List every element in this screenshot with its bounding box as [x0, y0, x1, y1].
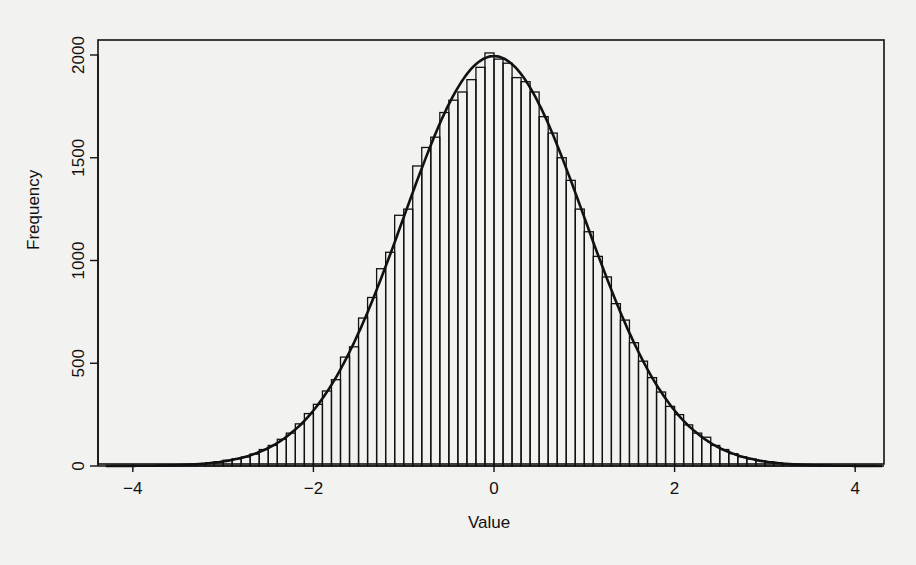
y-tick-label: 1500	[69, 139, 88, 177]
histogram-bar	[413, 166, 422, 466]
histogram-bar	[521, 82, 530, 466]
x-tick-label: 4	[850, 479, 859, 498]
histogram-bar	[431, 137, 440, 466]
histogram-bar	[620, 320, 629, 466]
histogram-bar	[629, 343, 638, 466]
histogram-bar	[485, 53, 494, 466]
x-axis-label: Value	[468, 513, 510, 533]
histogram-bar	[539, 117, 548, 466]
histogram-bar	[458, 92, 467, 466]
histogram-bar	[684, 425, 693, 466]
histogram-bar	[295, 424, 304, 466]
histogram-bar	[286, 433, 295, 466]
x-tick-label: 2	[670, 479, 679, 498]
histogram-bar	[476, 67, 485, 466]
histogram-bar	[593, 256, 602, 466]
x-tick-label: 0	[489, 479, 498, 498]
histogram-bar	[566, 180, 575, 466]
y-tick-label: 0	[69, 461, 88, 470]
histogram-bar	[575, 209, 584, 466]
histogram-bar	[638, 361, 647, 466]
histogram-bar	[657, 392, 666, 466]
histogram-bar	[313, 404, 322, 466]
histogram-bar	[675, 415, 684, 466]
histogram-bar	[395, 215, 404, 466]
histogram-bar	[331, 380, 340, 466]
histogram-chart: −4−20240500100015002000	[0, 0, 916, 565]
histogram-bar	[368, 297, 377, 466]
histogram-bar	[440, 113, 449, 466]
histogram-bar	[340, 357, 349, 466]
histogram-bar	[503, 63, 512, 466]
y-tick-label: 2000	[69, 36, 88, 74]
histogram-bar	[304, 414, 313, 466]
histogram-bar	[666, 406, 675, 466]
histogram-bar	[494, 59, 503, 466]
histogram-bar	[359, 318, 368, 466]
histogram-bar	[512, 78, 521, 466]
histogram-bar	[386, 252, 395, 466]
y-axis-label: Frequency	[24, 170, 44, 250]
histogram-bar	[322, 391, 331, 466]
histogram-bar	[611, 304, 620, 466]
histogram-bar	[602, 277, 611, 466]
histogram-bar	[693, 433, 702, 466]
histogram-bar	[530, 92, 539, 466]
histogram-bar	[548, 133, 557, 466]
y-tick-label: 1000	[69, 242, 88, 280]
histogram-bar	[422, 147, 431, 466]
histogram-bar	[404, 209, 413, 466]
histogram-bar	[557, 158, 566, 466]
plot-frame	[98, 40, 884, 464]
x-tick-label: −4	[123, 479, 142, 498]
histogram-bar	[584, 232, 593, 466]
histogram-bar	[467, 80, 476, 466]
histogram-bar	[350, 347, 359, 466]
x-tick-label: −2	[304, 479, 323, 498]
histogram-bar	[449, 100, 458, 466]
histogram-bar	[648, 378, 657, 466]
histogram-bar	[377, 269, 386, 466]
y-tick-label: 500	[69, 349, 88, 377]
